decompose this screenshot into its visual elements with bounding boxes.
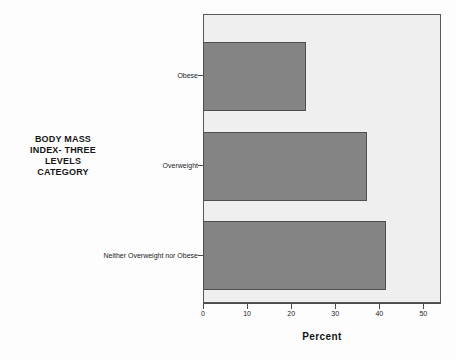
x-axis-tick xyxy=(423,304,424,309)
x-axis-tick xyxy=(335,304,336,309)
x-axis-tick xyxy=(291,304,292,309)
x-axis-tick xyxy=(379,304,380,309)
bar-overweight xyxy=(203,132,367,201)
category-label-overweight: Overweight xyxy=(0,161,198,171)
bar-obese xyxy=(203,42,306,111)
y-axis-title-line-1: BODY MASS xyxy=(8,134,118,145)
x-axis-title: Percent xyxy=(203,331,441,342)
x-axis-tick-label: 0 xyxy=(191,310,215,317)
x-axis-tick-label: 50 xyxy=(411,310,435,317)
x-axis-line xyxy=(203,303,441,304)
bar-neither-overweight-nor-obese xyxy=(203,221,386,290)
plot-area xyxy=(203,14,441,303)
y-axis-title-line-2: INDEX- THREE xyxy=(8,145,118,156)
category-label-obese: Obese xyxy=(0,71,198,81)
x-axis-tick-label: 10 xyxy=(235,310,259,317)
x-axis-tick xyxy=(247,304,248,309)
category-label-neither-overweight-nor-obese: Neither Overweight nor Obese xyxy=(0,251,198,261)
y-axis-title: BODY MASS INDEX- THREE LEVELS CATEGORY xyxy=(8,134,118,178)
x-axis-tick-label: 40 xyxy=(367,310,391,317)
x-axis-tick-label: 20 xyxy=(279,310,303,317)
x-axis-tick xyxy=(203,304,204,309)
bar-chart-figure: BODY MASS INDEX- THREE LEVELS CATEGORY O… xyxy=(0,0,456,360)
x-axis-tick-label: 30 xyxy=(323,310,347,317)
